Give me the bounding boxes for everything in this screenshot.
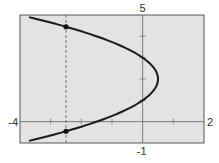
parabola-chart: 5 -1 -4 2 bbox=[0, 0, 219, 163]
marked-point bbox=[63, 129, 68, 134]
y-max-label: 5 bbox=[140, 2, 146, 14]
marked-point bbox=[63, 24, 68, 29]
y-min-label: -1 bbox=[137, 145, 147, 157]
x-min-label: -4 bbox=[8, 116, 18, 128]
x-max-label: 2 bbox=[207, 116, 213, 128]
